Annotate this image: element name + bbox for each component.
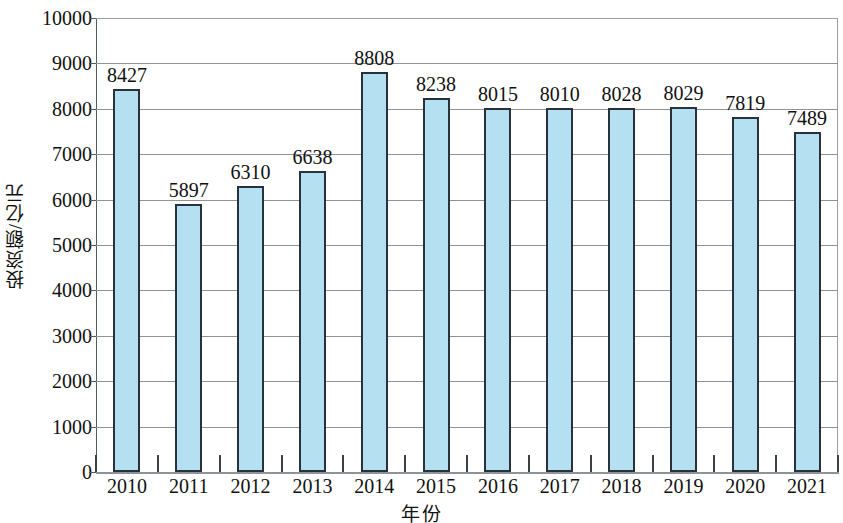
bar-value-label: 7819 <box>725 93 765 113</box>
bar <box>546 108 573 472</box>
bar-chart: 投资额/亿元 010002000300040005000600070008000… <box>0 0 843 523</box>
y-tick-mark <box>89 381 96 382</box>
gridline <box>96 154 838 155</box>
bar <box>175 204 202 472</box>
x-tick-mark <box>528 455 530 472</box>
x-tick-label: 2018 <box>602 476 642 496</box>
y-tick-label: 5000 <box>30 235 92 255</box>
x-axis-title: 年份 <box>0 499 843 523</box>
x-tick-label: 2010 <box>107 476 147 496</box>
y-tick-mark <box>89 200 96 201</box>
y-tick-mark <box>89 18 96 19</box>
bar-value-label: 8015 <box>478 84 518 104</box>
bar <box>361 72 388 472</box>
y-tick-mark <box>89 63 96 64</box>
y-tick-label: 8000 <box>30 99 92 119</box>
x-tick-label: 2014 <box>354 476 394 496</box>
bar-value-label: 8427 <box>107 65 147 85</box>
bar <box>113 89 140 472</box>
y-tick-mark <box>89 336 96 337</box>
gridline <box>96 63 838 64</box>
bar <box>608 108 635 472</box>
x-tick-mark <box>281 455 283 472</box>
gridline <box>96 427 838 428</box>
bar-value-label: 8010 <box>540 84 580 104</box>
x-tick-mark <box>157 455 159 472</box>
bar-value-label: 8029 <box>663 83 703 103</box>
bar-value-label: 8028 <box>602 84 642 104</box>
bar-value-label: 5897 <box>169 180 209 200</box>
y-axis-tick-labels: 0100020003000400050006000700080009000100… <box>26 0 92 523</box>
x-tick-mark <box>466 455 468 472</box>
x-tick-mark <box>95 455 97 472</box>
x-tick-mark <box>342 455 344 472</box>
x-tick-label: 2020 <box>725 476 765 496</box>
x-tick-label: 2016 <box>478 476 518 496</box>
y-tick-mark <box>89 109 96 110</box>
y-tick-label: 10000 <box>30 8 92 28</box>
bar <box>670 107 697 472</box>
x-tick-mark <box>713 455 715 472</box>
x-axis-line <box>96 472 839 474</box>
x-tick-mark <box>219 455 221 472</box>
gridline <box>96 381 838 382</box>
bar-value-label: 8238 <box>416 74 456 94</box>
x-tick-label: 2019 <box>663 476 703 496</box>
y-tick-mark <box>89 245 96 246</box>
gridline <box>96 336 838 337</box>
y-tick-label: 1000 <box>30 417 92 437</box>
y-tick-label: 4000 <box>30 280 92 300</box>
x-tick-label: 2017 <box>540 476 580 496</box>
y-tick-label: 3000 <box>30 326 92 346</box>
plot-area: 8427589763106638880882388015801080288029… <box>96 18 838 472</box>
y-axis-title: 投资额/亿元 <box>2 0 28 472</box>
y-tick-mark <box>89 427 96 428</box>
x-tick-mark <box>775 455 777 472</box>
y-tick-mark <box>89 154 96 155</box>
bar <box>484 108 511 472</box>
y-axis-title-text: 投资额/亿元 <box>2 183 29 289</box>
y-tick-label: 7000 <box>30 144 92 164</box>
bar-value-label: 7489 <box>787 108 827 128</box>
gridline <box>96 245 838 246</box>
bar <box>732 117 759 472</box>
bar <box>794 132 821 472</box>
x-tick-mark <box>652 455 654 472</box>
y-tick-label: 0 <box>30 462 92 482</box>
bar <box>299 171 326 472</box>
y-tick-mark <box>89 472 96 473</box>
x-tick-mark <box>837 455 839 472</box>
x-tick-label: 2012 <box>231 476 271 496</box>
bar-value-label: 6638 <box>292 147 332 167</box>
y-tick-label: 6000 <box>30 190 92 210</box>
bar <box>423 98 450 472</box>
x-tick-label: 2015 <box>416 476 456 496</box>
x-tick-label: 2011 <box>169 476 208 496</box>
x-tick-mark <box>404 455 406 472</box>
x-tick-label: 2013 <box>292 476 332 496</box>
y-tick-label: 2000 <box>30 371 92 391</box>
x-tick-mark <box>590 455 592 472</box>
bar-value-label: 8808 <box>354 48 394 68</box>
y-tick-label: 9000 <box>30 53 92 73</box>
bar <box>237 186 264 472</box>
gridline <box>96 290 838 291</box>
bar-value-label: 6310 <box>231 162 271 182</box>
x-tick-label: 2021 <box>787 476 827 496</box>
gridline <box>96 18 838 19</box>
y-tick-mark <box>89 290 96 291</box>
